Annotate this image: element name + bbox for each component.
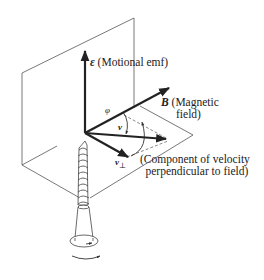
motional-emf-diagram bbox=[0, 0, 264, 280]
v-perp-label: v⊥ bbox=[115, 156, 126, 172]
component-line2: perpendicular to field) bbox=[140, 165, 250, 177]
b-symbol: B bbox=[161, 96, 169, 108]
screw bbox=[70, 141, 98, 247]
magnetic-field-label-line2: field) bbox=[176, 108, 201, 120]
emf-text: (Motional emf) bbox=[98, 56, 169, 68]
perp-subscript: ⊥ bbox=[119, 161, 126, 170]
vertical-plane bbox=[22, 18, 134, 165]
component-label: (Component of velocity perpendicular to … bbox=[140, 153, 250, 177]
velocity-vector bbox=[85, 133, 166, 139]
magnetic-field-label: B (Magnetic bbox=[161, 96, 219, 108]
phi-label: φ bbox=[105, 104, 110, 116]
component-line1: (Component of velocity bbox=[140, 153, 250, 165]
screw-rotation-arrow bbox=[72, 256, 100, 259]
emf-symbol: ε bbox=[90, 56, 95, 68]
emf-label: ε (Motional emf) bbox=[90, 56, 168, 68]
angle-arc-phi bbox=[123, 112, 127, 134]
v-label: v bbox=[118, 121, 122, 133]
b-text-line1: (Magnetic bbox=[172, 96, 219, 108]
